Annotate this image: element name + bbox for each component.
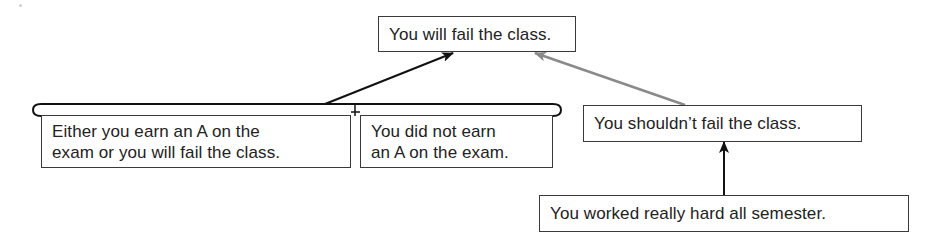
conclusion-text: You will fail the class. <box>389 24 565 45</box>
premise-disjunction-line-2: exam or you will fail the class. <box>52 142 340 163</box>
counter-claim-text: You shouldn’t fail the class. <box>594 113 851 134</box>
counter-support-text: You worked really hard all semester. <box>550 203 898 224</box>
scan-speck <box>19 4 22 7</box>
premise-not-a-line-1: You did not earn <box>371 121 542 142</box>
premise-not-a-box: You did not earn an A on the exam. <box>360 115 553 168</box>
counter-arrow <box>535 53 685 105</box>
support-arrow-premises <box>325 53 453 104</box>
counter-claim-box: You shouldn’t fail the class. <box>583 105 862 142</box>
premise-disjunction-line-1: Either you earn an A on the <box>52 121 340 142</box>
premise-not-a-line-2: an A on the exam. <box>371 142 542 163</box>
conclusion-box: You will fail the class. <box>378 16 576 52</box>
counter-support-box: You worked really hard all semester. <box>539 195 909 232</box>
premise-disjunction-box: Either you earn an A on the exam or you … <box>41 115 351 168</box>
